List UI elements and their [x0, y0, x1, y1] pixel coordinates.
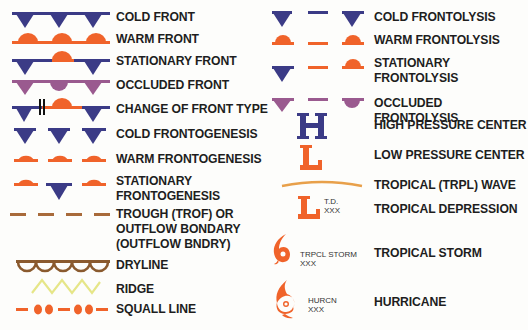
- tropical-wave-label: TROPICAL (TRPL) WAVE: [374, 178, 516, 193]
- tropical-storm-annotation: TRPCL STORM XXX: [300, 250, 357, 268]
- stationary-frontolysis-label-line1: STATIONARY: [374, 56, 458, 71]
- trough-label-line1: TROUGH (TROF) OR: [116, 207, 241, 222]
- tropical-storm-icon: [272, 233, 292, 265]
- dryline-symbol: [16, 259, 112, 275]
- cold-frontolysis-label: COLD FRONTOLYSIS: [374, 10, 496, 25]
- tropical-wave-symbol: [280, 178, 364, 190]
- occluded-front-symbol: [12, 78, 110, 98]
- high-pressure-icon: [296, 112, 328, 140]
- hurricane-annotation-line2: XXX: [308, 305, 337, 314]
- low-pressure-icon: [300, 145, 324, 171]
- warm-front-symbol: [12, 30, 110, 46]
- tropical-storm-label: TROPICAL STORM: [374, 246, 482, 261]
- tropical-depression-label: TROPICAL DEPRESSION: [374, 202, 517, 217]
- ridge-label: RIDGE: [116, 282, 154, 297]
- tropical-depression-annotation: T.D. XXX: [324, 197, 340, 215]
- warm-frontolysis-symbol: [272, 32, 364, 48]
- tropical-depression-icon: [298, 196, 322, 220]
- tropical-depression-annotation-line1: T.D.: [324, 197, 340, 206]
- ridge-symbol: [30, 277, 102, 295]
- cold-frontolysis-symbol: [272, 9, 364, 29]
- stationary-frontolysis-label: STATIONARY FRONTOLYSIS: [374, 56, 458, 86]
- low-pressure-center-label: LOW PRESSURE CENTER: [374, 148, 524, 163]
- cold-frontogenesis-symbol: [12, 126, 110, 146]
- cold-front-label: COLD FRONT: [116, 10, 195, 25]
- change-of-front-type-label: CHANGE OF FRONT TYPE: [116, 102, 268, 117]
- warm-frontolysis-label: WARM FRONTOLYSIS: [374, 33, 500, 48]
- hurricane-icon: [274, 279, 298, 319]
- stationary-front-symbol: [12, 48, 110, 76]
- stationary-frontogenesis-label-line2: FRONTOGENESIS: [116, 189, 220, 204]
- warm-front-label: WARM FRONT: [116, 32, 199, 47]
- stationary-frontogenesis-symbol: [12, 172, 110, 202]
- warm-frontogenesis-symbol: [12, 148, 110, 164]
- cold-frontogenesis-label: COLD FRONTOGENESIS: [116, 127, 258, 142]
- high-pressure-center-label: HIGH PRESSURE CENTER: [374, 118, 526, 133]
- stationary-front-label: STATIONARY FRONT: [116, 54, 237, 69]
- trough-label-line3: (OUTFLOW BNDRY): [116, 237, 241, 252]
- squall-line-symbol: [16, 302, 108, 316]
- trough-symbol: [10, 212, 110, 218]
- squall-line-label: SQUALL LINE: [116, 302, 196, 317]
- trough-label: TROUGH (TROF) OR OUTFLOW BONDARY (OUTFLO…: [116, 207, 241, 252]
- stationary-frontogenesis-label-line1: STATIONARY: [116, 174, 220, 189]
- occluded-front-label: OCCLUDED FRONT: [116, 78, 229, 93]
- stationary-frontolysis-label-line2: FRONTOLYSIS: [374, 71, 458, 86]
- cold-front-symbol: [12, 10, 110, 30]
- dryline-label: DRYLINE: [116, 258, 168, 273]
- hurricane-annotation: HURCN XXX: [308, 296, 337, 314]
- trough-label-line2: OUTFLOW BONDARY: [116, 222, 241, 237]
- warm-frontogenesis-label: WARM FRONTOGENESIS: [116, 152, 262, 167]
- stationary-frontolysis-symbol: [272, 56, 364, 84]
- tropical-storm-annotation-line1: TRPCL STORM: [300, 250, 357, 259]
- hurricane-label: HURRICANE: [374, 295, 446, 310]
- tropical-storm-annotation-line2: XXX: [300, 259, 357, 268]
- tropical-depression-annotation-line2: XXX: [324, 206, 340, 215]
- stationary-frontogenesis-label: STATIONARY FRONTOGENESIS: [116, 174, 220, 204]
- hurricane-annotation-line1: HURCN: [308, 296, 337, 305]
- change-of-front-type-symbol: [12, 96, 110, 124]
